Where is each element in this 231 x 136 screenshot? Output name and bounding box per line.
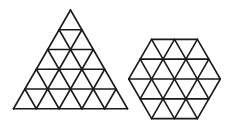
subdivided-triangle <box>14 10 128 109</box>
grid-line <box>14 10 71 109</box>
grid-line <box>25 89 36 109</box>
grid-line <box>105 89 116 109</box>
grid-line <box>71 10 128 109</box>
triangle-grid-figure <box>0 0 231 136</box>
subdivided-hexagon <box>129 39 221 118</box>
